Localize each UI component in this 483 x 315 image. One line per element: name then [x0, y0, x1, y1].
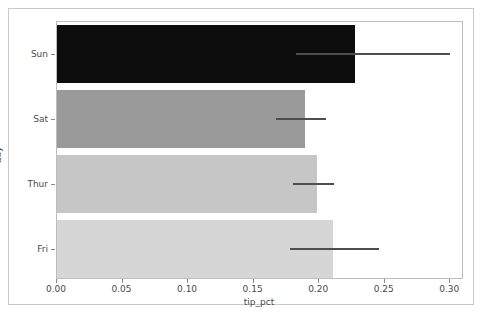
x-tick-mark-6 — [449, 279, 450, 283]
x-tick-label-6: 0.30 — [439, 284, 459, 294]
y-tick-mark-fri — [51, 249, 55, 250]
x-tick-label-2: 0.10 — [177, 284, 197, 294]
x-tick-mark-0 — [56, 279, 57, 283]
errorbar-fri — [290, 248, 379, 250]
y-tick-label-sat: Sat — [33, 114, 48, 124]
errorbar-thur — [293, 183, 334, 185]
y-axis-tick-labels: Sun Sat Thur Fri — [0, 0, 48, 315]
y-tick-label-sun: Sun — [31, 49, 48, 59]
x-tick-mark-3 — [253, 279, 254, 283]
bar-thur — [57, 155, 317, 213]
x-tick-mark-2 — [187, 279, 188, 283]
y-tick-mark-sat — [51, 119, 55, 120]
y-tick-label-fri: Fri — [37, 244, 48, 254]
x-tick-label-0: 0.00 — [46, 284, 66, 294]
y-tick-mark-sun — [51, 54, 55, 55]
x-tick-mark-1 — [122, 279, 123, 283]
x-tick-label-3: 0.15 — [243, 284, 263, 294]
x-tick-mark-5 — [384, 279, 385, 283]
x-tick-label-5: 0.25 — [374, 284, 394, 294]
y-tick-mark-thur — [51, 184, 55, 185]
errorbar-sat — [276, 118, 326, 120]
x-axis-label: tip_pct — [244, 297, 274, 307]
y-tick-label-thur: Thur — [27, 179, 48, 189]
x-tick-label-1: 0.05 — [112, 284, 132, 294]
x-tick-mark-4 — [318, 279, 319, 283]
bar-sat — [57, 90, 305, 148]
errorbar-sun — [296, 53, 451, 55]
plot-area — [56, 21, 463, 279]
x-tick-label-4: 0.20 — [308, 284, 328, 294]
